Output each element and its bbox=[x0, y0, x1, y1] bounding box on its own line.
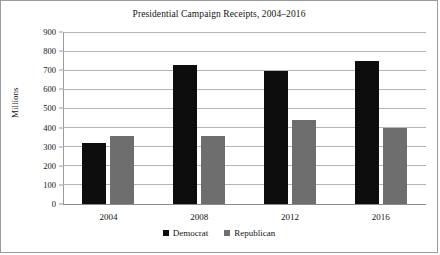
black-square-icon bbox=[163, 230, 169, 236]
y-tick-mark-0 bbox=[59, 204, 63, 205]
y-tick-label-100: 100 bbox=[43, 180, 56, 190]
bar-democrat-2012[interactable] bbox=[264, 71, 288, 204]
chart-figure: Presidential Campaign Receipts, 2004–201… bbox=[0, 0, 438, 253]
y-tick-label-400: 400 bbox=[43, 123, 56, 133]
y-tick-mark-400 bbox=[59, 127, 63, 128]
x-tick-label-2012: 2012 bbox=[281, 212, 299, 222]
y-tick-label-0: 0 bbox=[52, 199, 56, 209]
y-tick-mark-700 bbox=[59, 70, 63, 71]
y-tick-mark-200 bbox=[59, 165, 63, 166]
y-tick-label-700: 700 bbox=[43, 65, 56, 75]
x-tick-label-2004: 2004 bbox=[99, 212, 117, 222]
y-tick-mark-100 bbox=[59, 184, 63, 185]
y-tick-label-900: 900 bbox=[43, 27, 56, 37]
legend-label: Republican bbox=[234, 228, 275, 238]
legend-label: Democrat bbox=[173, 228, 208, 238]
bar-democrat-2016[interactable] bbox=[355, 61, 379, 204]
chart-title: Presidential Campaign Receipts, 2004–201… bbox=[1, 9, 437, 19]
plot-area: 0100200300400500600700800900200420082012… bbox=[63, 32, 426, 204]
chart-legend: DemocratRepublican bbox=[1, 228, 437, 238]
bar-republican-2008[interactable] bbox=[201, 136, 225, 204]
legend-item-republican[interactable]: Republican bbox=[224, 228, 275, 238]
y-tick-mark-300 bbox=[59, 146, 63, 147]
bar-group-2004 bbox=[82, 32, 134, 204]
gray-square-icon bbox=[224, 230, 230, 236]
bar-group-2012 bbox=[264, 32, 316, 204]
y-tick-mark-600 bbox=[59, 89, 63, 90]
bar-republican-2012[interactable] bbox=[292, 120, 316, 204]
y-tick-label-600: 600 bbox=[43, 84, 56, 94]
y-tick-label-800: 800 bbox=[43, 46, 56, 56]
y-tick-mark-800 bbox=[59, 51, 63, 52]
bar-republican-2016[interactable] bbox=[383, 128, 407, 204]
x-tick-label-2008: 2008 bbox=[190, 212, 208, 222]
y-tick-mark-500 bbox=[59, 108, 63, 109]
y-tick-label-300: 300 bbox=[43, 142, 56, 152]
y-tick-label-500: 500 bbox=[43, 103, 56, 113]
y-tick-mark-900 bbox=[59, 32, 63, 33]
bar-group-2016 bbox=[355, 32, 407, 204]
bar-democrat-2004[interactable] bbox=[82, 143, 106, 204]
y-tick-label-200: 200 bbox=[43, 161, 56, 171]
y-axis-title: Millions bbox=[10, 87, 20, 118]
x-tick-label-2016: 2016 bbox=[372, 212, 390, 222]
bar-group-2008 bbox=[173, 32, 225, 204]
bar-democrat-2008[interactable] bbox=[173, 65, 197, 204]
legend-item-democrat[interactable]: Democrat bbox=[163, 228, 208, 238]
bar-republican-2004[interactable] bbox=[110, 136, 134, 204]
